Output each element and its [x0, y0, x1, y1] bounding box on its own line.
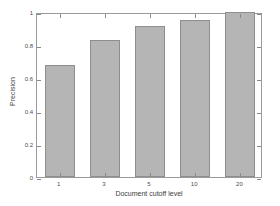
x-tick-mark-top [60, 14, 61, 18]
x-axis-title: Document cutoff level [36, 190, 262, 197]
plot-area [36, 13, 262, 178]
y-tick-label: 0 [30, 175, 33, 182]
x-tick-label: 3 [102, 180, 105, 188]
y-tick-label: 0.2 [25, 142, 33, 149]
x-axis-tick-labels: 1351020 [36, 180, 262, 190]
x-tick-mark [60, 173, 61, 177]
y-tick-mark-right [257, 146, 261, 147]
x-tick-label: 20 [236, 180, 243, 188]
y-tick-mark [37, 14, 41, 15]
x-tick-mark [105, 173, 106, 177]
y-tick-mark-right [257, 47, 261, 48]
y-tick-mark [37, 113, 41, 114]
y-tick-mark [37, 47, 41, 48]
x-tick-mark-top [240, 14, 241, 18]
y-tick-label: 0.6 [25, 76, 33, 83]
y-tick-mark [37, 80, 41, 81]
bar-5 [135, 26, 165, 177]
x-tick-mark-top [150, 14, 151, 18]
y-tick-mark-right [257, 14, 261, 15]
y-axis-tick-labels: 00.20.40.60.81 [0, 13, 33, 178]
x-tick-mark-top [195, 14, 196, 18]
x-tick-label: 10 [191, 180, 198, 188]
y-tick-mark-right [257, 113, 261, 114]
y-tick-label: 1 [30, 10, 33, 17]
x-tick-label: 1 [57, 180, 60, 188]
y-tick-mark-right [257, 80, 261, 81]
x-tick-mark [240, 173, 241, 177]
precision-bar-chart: Precision 00.20.40.60.81 1351020 Documen… [0, 0, 280, 206]
x-tick-label: 5 [147, 180, 150, 188]
bar-1 [45, 65, 75, 177]
y-tick-mark [37, 146, 41, 147]
x-tick-mark [150, 173, 151, 177]
y-tick-label: 0.8 [25, 43, 33, 50]
y-tick-label: 0.4 [25, 109, 33, 116]
bar-3 [90, 40, 120, 177]
bar-10 [180, 20, 210, 177]
x-tick-mark-top [105, 14, 106, 18]
x-tick-mark [195, 173, 196, 177]
bar-20 [225, 12, 255, 177]
